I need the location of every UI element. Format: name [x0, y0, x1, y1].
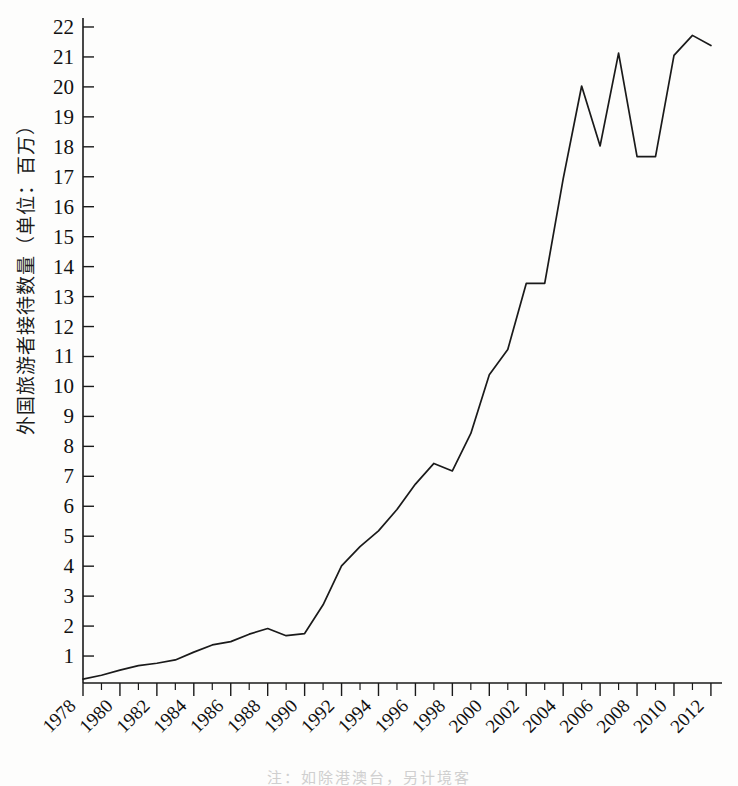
x-tick-label: 1986	[186, 695, 228, 737]
x-tick-label: 2006	[555, 695, 597, 737]
y-tick-label: 10	[53, 374, 74, 398]
y-tick-label: 2	[64, 614, 75, 638]
chart-tick-marks	[83, 27, 711, 696]
y-tick-label: 19	[53, 105, 74, 129]
x-tick-label: 2008	[592, 695, 634, 737]
chart-axes	[83, 18, 722, 683]
y-tick-label: 14	[53, 255, 75, 279]
x-tick-label: 1984	[149, 695, 191, 737]
y-tick-label: 7	[64, 464, 75, 488]
y-tick-label: 5	[64, 524, 75, 548]
x-tick-label: 2000	[444, 695, 486, 737]
figure-caption: 注：如除港澳台，另计境客	[0, 766, 738, 786]
y-tick-label: 13	[53, 285, 74, 309]
y-tick-label: 17	[53, 165, 74, 189]
y-tick-label: 4	[64, 554, 75, 578]
series-polyline	[83, 35, 711, 679]
y-tick-label: 21	[53, 45, 74, 69]
x-axis-tick-labels: 1978198019821984198619881990199219941996…	[38, 695, 708, 737]
y-tick-label: 11	[54, 344, 74, 368]
y-tick-label: 15	[53, 225, 74, 249]
x-tick-label: 1982	[112, 695, 154, 737]
data-series-line	[83, 35, 711, 679]
x-tick-label: 1994	[334, 695, 376, 737]
x-tick-label: 1978	[38, 695, 80, 737]
line-chart-plot: 12345678910111213141516171819202122 1978…	[0, 0, 738, 786]
y-tick-label: 8	[64, 434, 75, 458]
x-tick-label: 1990	[260, 695, 302, 737]
y-tick-label: 1	[64, 644, 75, 668]
x-tick-label: 1998	[407, 695, 449, 737]
x-tick-label: 1988	[223, 695, 265, 737]
x-tick-label: 1980	[75, 695, 117, 737]
x-tick-label: 1992	[297, 695, 339, 737]
y-tick-label: 20	[53, 75, 74, 99]
y-tick-label: 6	[64, 494, 75, 518]
x-tick-label: 2012	[666, 695, 708, 737]
y-tick-label: 18	[53, 135, 74, 159]
y-tick-label: 3	[64, 584, 75, 608]
y-tick-label: 9	[64, 404, 75, 428]
x-tick-label: 2004	[518, 695, 560, 737]
y-axis-tick-labels: 12345678910111213141516171819202122	[53, 15, 75, 668]
x-tick-label: 2002	[481, 695, 523, 737]
chart-figure: 12345678910111213141516171819202122 1978…	[0, 0, 738, 786]
y-tick-label: 22	[53, 15, 74, 39]
y-tick-label: 16	[53, 195, 74, 219]
x-tick-label: 1996	[371, 695, 413, 737]
x-tick-label: 2010	[629, 695, 671, 737]
y-tick-label: 12	[53, 315, 74, 339]
